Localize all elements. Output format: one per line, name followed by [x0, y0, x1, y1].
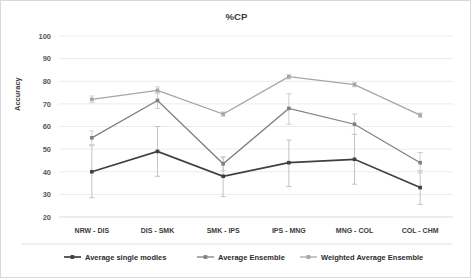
x-axis-category-label: SMK - IPS: [207, 227, 240, 234]
chart-plot-area: 2030405060708090100 NRW - DISDIS - SMKSM…: [1, 1, 471, 278]
x-axis-category-labels: NRW - DISDIS - SMKSMK - IPSIPS - MNGMNG …: [75, 227, 439, 234]
y-axis-tick-labels: 2030405060708090100: [38, 32, 51, 222]
series-2: [89, 93, 423, 173]
legend-marker-swatch: [307, 255, 311, 259]
legend-item-1[interactable]: Average single modles: [64, 253, 166, 262]
chart-container: %CP Accuracy 2030405060708090100 NRW - D…: [0, 0, 471, 278]
x-axis-category-label: MNG - COL: [336, 227, 374, 234]
data-point-marker: [90, 98, 94, 102]
legend-label: Average Ensemble: [218, 253, 285, 262]
data-point-marker: [221, 162, 225, 166]
data-point-marker: [353, 83, 357, 87]
gridlines: [59, 36, 453, 217]
data-point-marker: [156, 99, 160, 103]
data-point-marker: [287, 161, 291, 165]
data-point-marker: [156, 89, 160, 93]
data-point-marker: [221, 174, 225, 178]
y-axis-tick-label: 70: [43, 100, 51, 109]
y-axis-tick-label: 40: [43, 168, 51, 177]
y-axis-tick-label: 90: [43, 54, 51, 63]
data-point-marker: [221, 112, 225, 116]
legend-marker-swatch: [204, 255, 208, 259]
legend-marker-swatch: [71, 255, 75, 259]
data-point-marker: [156, 150, 160, 154]
x-axis-category-label: IPS - MNG: [272, 227, 306, 234]
data-point-marker: [353, 122, 357, 126]
legend-item-3[interactable]: Weighted Average Ensemble: [300, 253, 423, 262]
data-point-marker: [90, 136, 94, 140]
y-axis-tick-label: 80: [43, 77, 51, 86]
y-axis-tick-label: 20: [43, 213, 51, 222]
data-point-marker: [418, 113, 422, 117]
y-axis-tick-label: 100: [38, 32, 51, 41]
y-axis-tick-label: 60: [43, 122, 51, 131]
series-line: [92, 151, 420, 187]
y-axis-tick-label: 50: [43, 145, 51, 154]
data-point-marker: [287, 75, 291, 79]
x-axis-category-label: COL - CHM: [402, 227, 439, 234]
chart-legend: Average single modlesAverage EnsembleWei…: [21, 244, 452, 262]
legend-label: Average single modles: [85, 253, 166, 262]
y-axis-tick-label: 30: [43, 190, 51, 199]
x-axis-category-label: NRW - DIS: [75, 227, 110, 234]
data-series-group: [89, 74, 423, 204]
data-point-marker: [353, 158, 357, 162]
data-point-marker: [418, 186, 422, 190]
data-point-marker: [418, 161, 422, 165]
x-axis-category-label: DIS - SMK: [141, 227, 174, 234]
series-1: [89, 127, 423, 205]
data-point-marker: [287, 107, 291, 111]
legend-item-2[interactable]: Average Ensemble: [197, 253, 285, 262]
legend-label: Weighted Average Ensemble: [321, 253, 423, 262]
series-line: [92, 100, 420, 163]
data-point-marker: [90, 170, 94, 174]
